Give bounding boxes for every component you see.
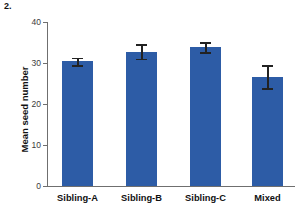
error-bar-cap-bottom	[72, 65, 83, 67]
bar-group	[62, 22, 93, 186]
y-axis-tick-label: 40	[32, 17, 41, 27]
y-axis-tick-mark	[43, 63, 47, 64]
figure-number-label: 2.	[4, 1, 12, 11]
bar-group	[190, 22, 221, 186]
x-axis-label-sibling-a: Sibling-A	[43, 193, 112, 203]
x-axis-label-sibling-c: Sibling-C	[171, 193, 240, 203]
error-bar-cap-top	[200, 42, 211, 44]
figure-container: 2. Mean seed number 010203040 Sibling-AS…	[0, 0, 299, 218]
bar-sibling-c	[190, 47, 221, 186]
y-axis-title: Mean seed number	[19, 30, 30, 190]
y-axis-tick-label: 0	[36, 181, 41, 191]
y-axis-tick-mark	[43, 22, 47, 23]
bar-sibling-a	[62, 61, 93, 186]
error-bar-line	[267, 65, 269, 88]
bar-sibling-b	[126, 52, 157, 186]
x-axis-label-mixed: Mixed	[233, 193, 299, 203]
bar-mixed	[252, 77, 283, 186]
plot-area: 010203040	[47, 22, 295, 186]
bar-group	[126, 22, 157, 186]
y-axis-tick-mark	[43, 186, 47, 187]
error-bar-cap-top	[72, 58, 83, 60]
error-bar-cap-top	[136, 44, 147, 46]
error-bar-cap-bottom	[262, 88, 273, 90]
y-axis-tick-label: 20	[32, 99, 41, 109]
y-axis-tick-label: 30	[32, 58, 41, 68]
x-axis-line	[47, 186, 295, 187]
bar-group	[252, 22, 283, 186]
error-bar-line	[141, 44, 143, 59]
y-axis-tick-mark	[43, 145, 47, 146]
x-axis-label-sibling-b: Sibling-B	[107, 193, 176, 203]
y-axis-tick-mark	[43, 104, 47, 105]
error-bar-cap-bottom	[136, 59, 147, 61]
error-bar-cap-bottom	[200, 52, 211, 54]
error-bar-cap-top	[262, 65, 273, 67]
y-axis-line	[47, 22, 48, 186]
y-axis-tick-label: 10	[32, 140, 41, 150]
